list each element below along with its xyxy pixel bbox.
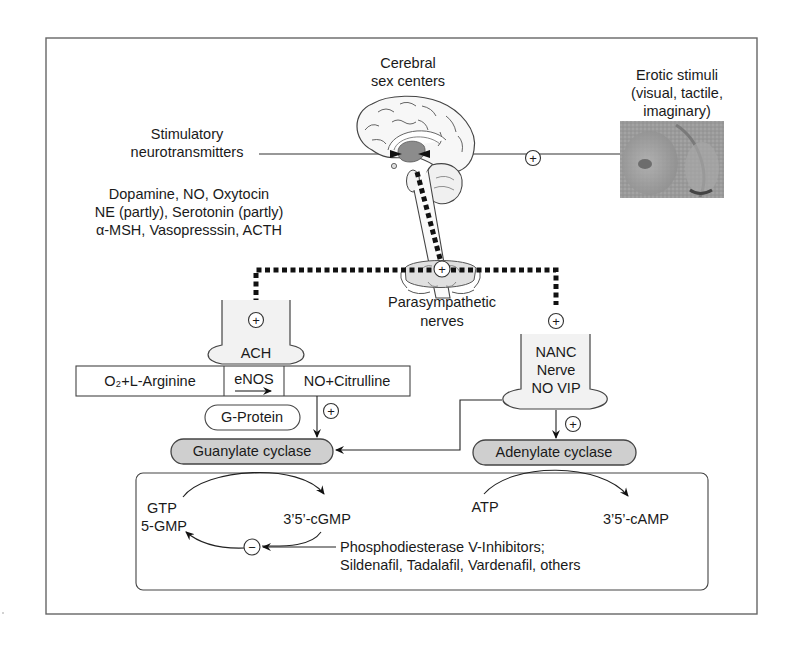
- svg-text:+: +: [438, 262, 446, 277]
- g-protein-node: G-Protein: [205, 405, 300, 430]
- svg-text:+: +: [327, 404, 335, 419]
- pde-inhibitors-label: Phosphodiesterase V-Inhibitors; Sildenaf…: [340, 539, 580, 573]
- enos-label: eNOS: [234, 371, 274, 387]
- svg-text:Guanylate cyclase: Guanylate cyclase: [193, 443, 311, 459]
- svg-text:+: +: [252, 313, 260, 328]
- arrow-atp-to-camp: [484, 470, 628, 496]
- svg-text:NE (partly), Serotonin (partly: NE (partly), Serotonin (partly): [95, 204, 284, 220]
- plus-sign-nanc: +: [549, 314, 564, 329]
- plus-sign-spinal: +: [434, 261, 450, 277]
- svg-text:Cerebral: Cerebral: [380, 55, 436, 71]
- plus-sign-adenylate: +: [566, 417, 581, 432]
- svg-text:Parasympathetic: Parasympathetic: [388, 294, 496, 310]
- arrow-to-5-gmp: [186, 532, 245, 548]
- svg-text:NANC: NANC: [535, 344, 576, 360]
- cerebral-sex-centers-label: Cerebral sex centers: [371, 55, 445, 89]
- nanc-nerve-terminal: NANC Nerve NO VIP: [503, 334, 607, 409]
- svg-text:+: +: [529, 151, 537, 166]
- svg-text:Dopamine, NO, Oxytocin: Dopamine, NO, Oxytocin: [109, 186, 269, 202]
- ach-nerve-terminal: ACH: [208, 300, 304, 364]
- svg-text:sex centers: sex centers: [371, 73, 445, 89]
- cgmp-label: 3’5’-cGMP: [283, 511, 351, 527]
- adenylate-cyclase-node: Adenylate cyclase: [473, 440, 636, 465]
- 5-gmp-label: 5-GMP: [141, 518, 187, 534]
- stimulatory-neurotransmitters-label: Stimulatory neurotransmitters: [131, 126, 244, 160]
- svg-text:Sildenafil, Tadalafil, Vardena: Sildenafil, Tadalafil, Vardenafil, other…: [340, 557, 580, 573]
- svg-text:neurotransmitters: neurotransmitters: [131, 144, 244, 160]
- camp-label: 3’5’-cAMP: [603, 511, 669, 527]
- plus-sign-no: +: [324, 404, 339, 419]
- atp-label: ATP: [471, 499, 498, 515]
- substrate-label: O₂+L-Arginine: [104, 373, 195, 389]
- erotic-stimuli-photo: [620, 121, 724, 198]
- svg-text:G-Protein: G-Protein: [221, 409, 283, 425]
- arrow-cgmp-to-inhibitor: [262, 532, 321, 546]
- svg-text:α-MSH, Vasopresssin, ACTH: α-MSH, Vasopresssin, ACTH: [96, 222, 282, 238]
- svg-text:ACH: ACH: [241, 345, 272, 361]
- neurotransmitter-list: Dopamine, NO, Oxytocin NE (partly), Sero…: [95, 186, 284, 238]
- nos-reaction-row: O₂+L-Arginine eNOS NO+Citrulline: [76, 366, 410, 396]
- erotic-stimuli-label: Erotic stimuli (visual, tactile, imagina…: [631, 67, 723, 119]
- arrow-gtp-to-cgmp: [183, 473, 324, 497]
- svg-text:(visual, tactile,: (visual, tactile,: [631, 85, 723, 101]
- svg-text:+: +: [552, 314, 560, 329]
- svg-text:nerves: nerves: [420, 313, 464, 329]
- svg-text:NO VIP: NO VIP: [531, 380, 580, 396]
- erection-physiology-diagram: Cerebral sex centers Erotic stimuli (vis…: [0, 0, 790, 648]
- svg-text:Phosphodiesterase V-Inhibitors: Phosphodiesterase V-Inhibitors;: [340, 539, 545, 555]
- svg-text:−: −: [248, 540, 256, 555]
- product-label: NO+Citrulline: [304, 373, 391, 389]
- parasympathetic-nerves-label: Parasympathetic nerves: [388, 294, 496, 329]
- gtp-label: GTP: [147, 500, 177, 516]
- svg-text:Nerve: Nerve: [537, 362, 576, 378]
- svg-text:+: +: [569, 417, 577, 432]
- plus-sign-ach: +: [249, 313, 264, 328]
- svg-text:Stimulatory: Stimulatory: [151, 126, 224, 142]
- svg-text:Adenylate cyclase: Adenylate cyclase: [496, 444, 613, 460]
- svg-text:imaginary): imaginary): [643, 103, 711, 119]
- minus-sign-pde: −: [244, 539, 260, 555]
- svg-text:Erotic stimuli: Erotic stimuli: [636, 67, 718, 83]
- guanylate-cyclase-node: Guanylate cyclase: [171, 439, 333, 464]
- plus-sign-stimuli: +: [526, 151, 541, 166]
- scan-artifact: [2, 612, 4, 614]
